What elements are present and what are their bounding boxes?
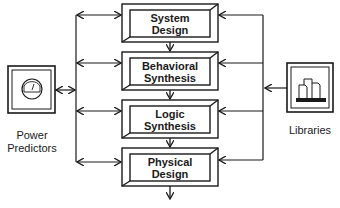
stage-label-physical-design: Physical Design xyxy=(134,156,206,180)
stage-label-line: Synthesis xyxy=(134,120,206,132)
stage-label-line: Design xyxy=(134,24,206,36)
stage-label-line: Design xyxy=(134,168,206,180)
side-label-line: Predictors xyxy=(2,142,62,155)
side-label-line: Power xyxy=(2,129,62,142)
stage-label-logic-synthesis: Logic Synthesis xyxy=(134,108,206,132)
gauge-icon xyxy=(8,66,55,113)
stage-label-system-design: System Design xyxy=(134,12,206,36)
stage-label-line: Physical xyxy=(134,156,206,168)
stage-label-line: Logic xyxy=(134,108,206,120)
stage-label-behavioral-synthesis: Behavioral Synthesis xyxy=(134,60,206,84)
stage-label-line: Synthesis xyxy=(134,72,206,84)
libraries-label: Libraries xyxy=(282,124,338,137)
power-predictors-label: Power Predictors xyxy=(2,129,62,155)
power-predictor-bus xyxy=(56,15,121,162)
library-blocks-icon xyxy=(287,63,333,112)
libraries-bus xyxy=(219,15,287,160)
stage-label-line: Behavioral xyxy=(134,60,206,72)
stage-label-line: System xyxy=(134,12,206,24)
